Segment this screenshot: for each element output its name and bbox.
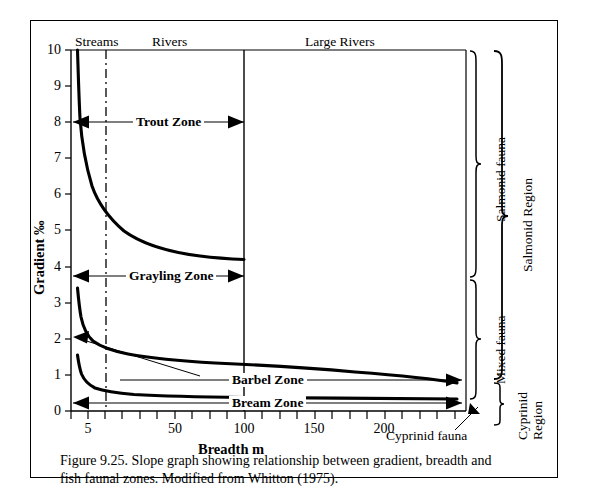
region-label-rivers: Rivers (152, 35, 187, 49)
y-axis-title: Gradient ‰ (32, 220, 47, 295)
x-tick-label: 150 (294, 422, 334, 436)
y-tick-label: 2 (39, 332, 61, 346)
y-tick-label: 7 (39, 151, 61, 165)
brace-label-cyprinid-region-line1: Cyprinid (516, 392, 530, 440)
x-axis-ticks (71, 411, 455, 419)
y-tick-label: 1 (39, 368, 61, 382)
y-tick-label: 6 (39, 187, 61, 201)
brace-label-cyprinid-region-line2: Region (531, 401, 545, 440)
x-tick-label: 50 (155, 422, 195, 436)
zone-label-bream: Bream Zone (229, 396, 306, 410)
brace-cyprinid-region (494, 383, 504, 425)
curve-trout-grayling (78, 50, 245, 260)
figure-caption: Figure 9.25. Slope graph showing relatio… (60, 452, 510, 488)
zone-label-trout: Trout Zone (133, 115, 204, 129)
y-tick-label: 9 (39, 79, 61, 93)
brace-label-salmonid-region: Salmonid Region (521, 178, 535, 272)
brace-label-salmonid-fauna: Salmonid fauna (494, 137, 508, 222)
brace-label-mixed-fauna: Mixed fauna (494, 315, 508, 384)
y-tick-label: 10 (39, 43, 61, 57)
zone-label-barbel: Barbel Zone (229, 373, 307, 387)
brace-salmonid-fauna (470, 51, 481, 277)
brace-mixed-fauna (470, 280, 481, 399)
x-tick-label: 100 (224, 422, 264, 436)
y-tick-label: 0 (39, 404, 61, 418)
y-tick-label: 3 (39, 296, 61, 310)
zone-label-grayling: Grayling Zone (126, 269, 216, 283)
callout-label-cyprinid-fauna: Cyprinid fauna (386, 429, 467, 443)
region-label-streams: Streams (75, 35, 119, 49)
figure-container: 10 9 8 7 6 5 4 3 2 1 0 5 50 100 150 200 … (0, 0, 591, 501)
plot-axes (71, 50, 466, 411)
y-tick-label: 8 (39, 115, 61, 129)
callout-cyprinid-fauna-leader (455, 403, 480, 430)
y-axis-ticks (65, 50, 71, 411)
curve-grayling-barbel (78, 288, 458, 383)
x-tick-label: 5 (68, 422, 108, 436)
region-label-large-rivers: Large Rivers (305, 35, 375, 49)
